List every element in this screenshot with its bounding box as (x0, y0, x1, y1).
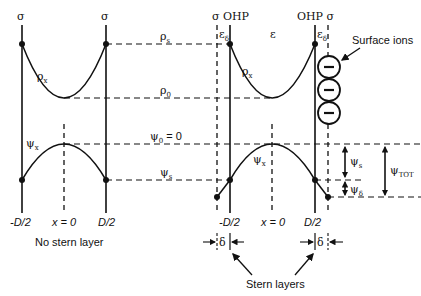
surface-point (19, 177, 25, 183)
psi-delta-drop-label: ψδ (350, 183, 363, 198)
top-right-label: OHP σ (297, 10, 335, 23)
axis-label-center: x = 0 (260, 216, 286, 228)
charge-density-curve (22, 44, 106, 98)
level-lines: ρs ρ0 ψ0 = 0 ψs (64, 30, 421, 197)
axis-label-right: D/2 (98, 216, 115, 228)
stern-thickness-left: δ (203, 233, 244, 250)
stern-layer-diagram: σ σ ρx ψx -D/2 x = 0 D/2 No stern layer … (0, 0, 421, 296)
surface-ions (318, 56, 340, 124)
rho-0-label: ρ0 (160, 84, 171, 99)
psi-s-label: ψs (160, 166, 173, 181)
rho-x-label: ρx (37, 70, 47, 85)
ohp-point (312, 41, 318, 47)
right-panel: σ OHP OHP σ εδ ε εδ ρx ψx Surface ions (203, 10, 414, 290)
sigma-label: σ (17, 10, 25, 23)
rho-s-label: ρs (160, 30, 170, 45)
psi-tot-label: ψTOT (390, 164, 414, 179)
stern-arrow-right (295, 254, 313, 275)
surface-ions-arrow (342, 48, 360, 60)
epsilon-delta-left: εδ (219, 28, 229, 43)
stern-potential-drop-right (315, 180, 328, 197)
axis-label-left: -D/2 (219, 216, 240, 228)
delta-label-left: δ (219, 236, 226, 249)
sigma-label: σ (101, 10, 109, 23)
surface-point (19, 41, 25, 47)
left-panel-caption: No stern layer (35, 236, 104, 248)
stern-potential-drop-left (217, 180, 230, 197)
surface-ions-label: Surface ions (352, 34, 414, 46)
top-left-label: σ OHP (212, 10, 250, 23)
epsilon-delta-right: εδ (317, 28, 327, 43)
surface-point (325, 194, 331, 200)
stern-thickness-right: δ (300, 233, 343, 250)
delta-label-right: δ (317, 236, 324, 249)
psi-x-label: ψx (26, 137, 39, 152)
psi-x-label: ψx (253, 153, 266, 168)
epsilon-bulk: ε (270, 28, 276, 41)
rho-x-label: ρx (242, 65, 252, 80)
stern-arrow-left (233, 254, 252, 275)
axis-label-right: D/2 (304, 216, 321, 228)
axis-label-left: -D/2 (10, 216, 31, 228)
psi-s-drop-label: ψs (350, 155, 363, 170)
ohp-point (227, 177, 233, 183)
surface-point (214, 194, 220, 200)
axis-label-center: x = 0 (51, 216, 77, 228)
psi-0-label: ψ0 = 0 (150, 130, 182, 145)
ohp-point (312, 177, 318, 183)
stern-layers-caption: Stern layers (246, 278, 305, 290)
left-panel: σ σ ρx ψx -D/2 x = 0 D/2 No stern layer (10, 10, 115, 248)
